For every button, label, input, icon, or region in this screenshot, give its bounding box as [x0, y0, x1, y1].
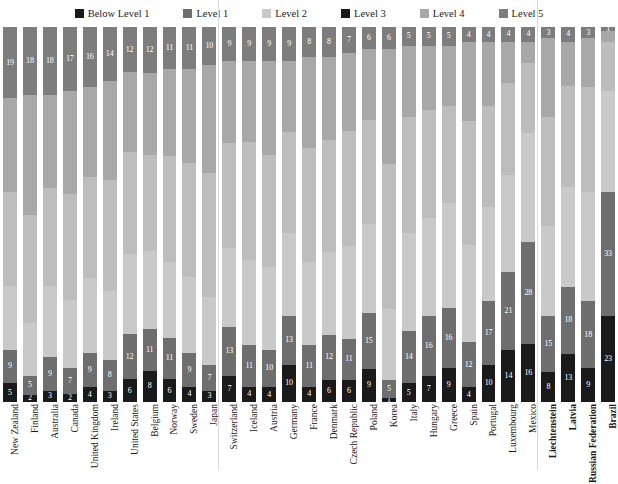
bar-column[interactable]: 42114: [498, 27, 518, 402]
bar-segment: [182, 163, 196, 277]
x-axis-label: Sweden: [189, 404, 199, 434]
bar-segment: [103, 180, 117, 291]
bar-segment: 8: [541, 372, 555, 402]
stacked-bar: 1694: [83, 27, 97, 402]
bar-segment-value: 18: [26, 57, 34, 65]
bar-column[interactable]: 7116: [339, 27, 359, 402]
bar-segment: 4: [83, 387, 97, 402]
bar-segment: [541, 117, 555, 226]
bar-segment: [302, 262, 316, 345]
bar-segment: [561, 187, 575, 287]
legend-item-2[interactable]: Level 2: [262, 8, 307, 19]
bar-column[interactable]: 41813: [558, 27, 578, 402]
bar-column[interactable]: 1852: [20, 27, 40, 402]
bar-segment: [242, 142, 256, 261]
bar-segment-value: 4: [467, 391, 471, 399]
bar-column[interactable]: 9114: [239, 27, 259, 402]
bar-segment-value: 4: [247, 390, 251, 398]
x-axis-tick: Greece: [439, 402, 459, 484]
bar-segment: 10: [202, 27, 216, 65]
x-axis-label: Luxembourg: [508, 404, 518, 453]
bar-segment-value: 12: [325, 353, 333, 361]
bar-segment-value: 9: [586, 381, 590, 389]
group-separator: [537, 0, 538, 470]
bar-segment: [561, 86, 575, 186]
x-axis-tick: Luxembourg: [498, 402, 518, 484]
bar-column[interactable]: 42816: [518, 27, 538, 402]
bar-segment: 17: [482, 301, 496, 365]
bar-segment-value: 11: [186, 44, 193, 52]
bar-segment-value: 11: [166, 354, 173, 362]
bar-column[interactable]: 8126: [319, 27, 339, 402]
stacked-bar: 5167: [422, 27, 436, 402]
bar-segment-value: 10: [265, 364, 273, 372]
bar-column[interactable]: 5145: [399, 27, 419, 402]
bar-column[interactable]: 1893: [40, 27, 60, 402]
bar-column[interactable]: 13323: [598, 27, 618, 402]
bar-segment-value: 6: [347, 387, 351, 395]
bar-column[interactable]: 3189: [578, 27, 598, 402]
stacked-bar: 9114: [242, 27, 256, 402]
bar-column[interactable]: 1073: [199, 27, 219, 402]
legend-item-1[interactable]: Level 1: [183, 8, 228, 19]
legend-item-4[interactable]: Level 4: [420, 8, 465, 19]
stacked-bar: 42816: [521, 27, 535, 402]
bar-segment: 11: [143, 329, 157, 372]
stacked-bar: 8126: [322, 27, 336, 402]
bar-segment: 9: [83, 353, 97, 387]
bar-segment: [422, 46, 436, 110]
bar-segment: 5: [402, 27, 416, 46]
bar-segment: 12: [123, 334, 137, 379]
stacked-bar: 13323: [601, 27, 615, 402]
stacked-bar: 9104: [262, 27, 276, 402]
bar-segment: 23: [601, 316, 615, 402]
bar-segment: 21: [501, 272, 515, 350]
bar-segment-value: 6: [168, 387, 172, 395]
stacked-bar: 41710: [482, 27, 496, 402]
bar-column[interactable]: 12118: [140, 27, 160, 402]
bar-segment: [163, 156, 177, 262]
bar-segment: 4: [521, 27, 535, 42]
bar-column[interactable]: 11116: [160, 27, 180, 402]
bar-column[interactable]: 12126: [120, 27, 140, 402]
bar-segment: [442, 203, 456, 308]
bar-column[interactable]: 9104: [259, 27, 279, 402]
legend-item-3[interactable]: Level 3: [341, 8, 386, 19]
bar-column[interactable]: 8114: [299, 27, 319, 402]
bar-segment: [442, 106, 456, 204]
stacked-bar: 12118: [143, 27, 157, 402]
bar-column[interactable]: 41710: [479, 27, 499, 402]
bar-column[interactable]: 91310: [279, 27, 299, 402]
bar-column[interactable]: 5167: [419, 27, 439, 402]
bar-segment-value: 8: [108, 371, 112, 379]
bar-column[interactable]: 1194: [179, 27, 199, 402]
bar-segment: [402, 46, 416, 117]
bar-column[interactable]: 651: [379, 27, 399, 402]
legend-item-0[interactable]: Below Level 1: [75, 8, 150, 19]
bar-column[interactable]: 5169: [439, 27, 459, 402]
bar-column[interactable]: 1483: [100, 27, 120, 402]
bar-segment-value: 21: [505, 307, 513, 315]
bar-column[interactable]: 9137: [219, 27, 239, 402]
bar-segment: [143, 73, 157, 154]
bar-column[interactable]: 6159: [359, 27, 379, 402]
bar-column[interactable]: 1772: [60, 27, 80, 402]
bar-segment-value: 6: [327, 387, 331, 395]
bar-segment: [601, 42, 615, 91]
bar-segment: [601, 91, 615, 192]
bar-segment: 7: [422, 376, 436, 402]
x-axis-label: Spain: [469, 404, 479, 426]
bar-column[interactable]: 1694: [80, 27, 100, 402]
bar-column[interactable]: 3158: [538, 27, 558, 402]
bar-column[interactable]: 4124: [459, 27, 479, 402]
bar-segment: [482, 207, 496, 301]
bar-segment: [402, 233, 416, 331]
bar-segment: 4: [561, 27, 575, 42]
bar-segment-value: 11: [246, 362, 253, 370]
bar-column[interactable]: 1995: [0, 27, 20, 402]
bar-segment: 9: [362, 369, 376, 402]
bar-segment: 9: [442, 368, 456, 402]
x-axis-tick: United States: [120, 402, 140, 484]
bar-segment-value: 4: [88, 391, 92, 399]
x-axis-label: Denmark: [329, 404, 339, 439]
